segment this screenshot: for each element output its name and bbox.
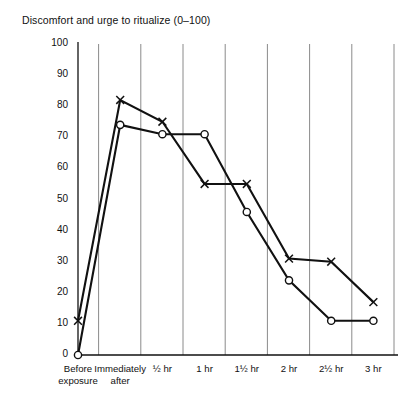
- x-tick-label-line2: after: [94, 375, 146, 387]
- data-point-circle: [117, 121, 124, 128]
- data-point-x: [370, 298, 378, 306]
- x-tick-label-line1: Immediately: [94, 363, 146, 374]
- y-tick-label: 10: [38, 317, 68, 328]
- y-tick-label: 60: [38, 161, 68, 172]
- x-tick-label-line1: Before: [64, 363, 92, 374]
- y-tick-label: 50: [38, 193, 68, 204]
- x-tick-label: 2½ hr: [319, 363, 344, 375]
- y-tick-label: 100: [38, 37, 68, 48]
- axis-lines-group: [78, 42, 398, 355]
- y-tick-label: 20: [38, 286, 68, 297]
- x-tick-label: ½ hr: [153, 363, 172, 375]
- data-point-circle: [328, 317, 335, 324]
- x-tick-label-line1: 2½ hr: [319, 363, 344, 374]
- x-tick-label: Beforeexposure: [58, 363, 97, 386]
- y-tick-label: 0: [38, 348, 68, 359]
- x-tick-label-line1: 1½ hr: [235, 363, 260, 374]
- x-tick-label-line1: 3 hr: [365, 363, 382, 374]
- data-point-circle: [370, 317, 377, 324]
- gridlines-group: [99, 44, 394, 355]
- x-tick-label-line1: ½ hr: [153, 363, 172, 374]
- data-point-circle: [285, 277, 292, 284]
- x-tick-label: 1 hr: [196, 363, 213, 375]
- data-point-circle: [201, 131, 208, 138]
- x-tick-label: 3 hr: [365, 363, 382, 375]
- y-tick-label: 90: [38, 68, 68, 79]
- data-point-circle: [74, 351, 81, 358]
- x-tick-label: 2 hr: [281, 363, 298, 375]
- chart-figure: Discomfort and urge to ritualize (0–100)…: [0, 0, 403, 409]
- data-point-x: [159, 118, 167, 126]
- data-point-circle: [243, 208, 250, 215]
- y-tick-label: 80: [38, 99, 68, 110]
- y-tick-label: 30: [38, 255, 68, 266]
- x-tick-label-line2: exposure: [58, 375, 97, 387]
- x-tick-label-line1: 2 hr: [281, 363, 298, 374]
- x-tick-label: Immediatelyafter: [94, 363, 146, 386]
- x-tick-label-line1: 1 hr: [196, 363, 213, 374]
- data-point-circle: [159, 131, 166, 138]
- x-tick-label: 1½ hr: [235, 363, 260, 375]
- y-tick-label: 40: [38, 224, 68, 235]
- y-tick-label: 70: [38, 130, 68, 141]
